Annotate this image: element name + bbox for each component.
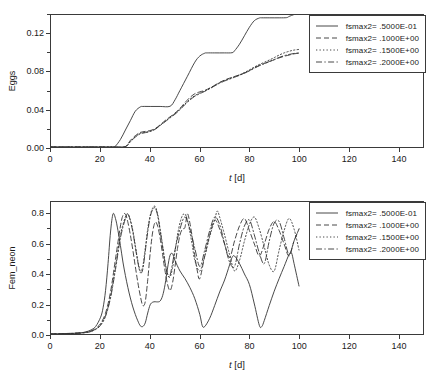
legend-item-0[interactable]: fsmax2= .5000E-01 bbox=[315, 207, 419, 219]
x-tick-label: 100 bbox=[292, 154, 307, 164]
y-tick-mark bbox=[46, 335, 50, 336]
y-tick-label: 0.04 bbox=[26, 105, 44, 115]
x-tick-mark bbox=[349, 335, 350, 339]
y-tick-label: 0.08 bbox=[26, 66, 44, 76]
legend-item-label: fsmax2= .5000E-01 bbox=[346, 209, 417, 218]
y-tick-mark bbox=[46, 33, 50, 34]
y-minor-tick-mark bbox=[47, 228, 50, 229]
y-minor-tick-mark bbox=[47, 14, 50, 15]
eggs-legend: fsmax2= .5000E-01fsmax2= .1000E+00fsmax2… bbox=[309, 15, 426, 73]
y-tick-mark bbox=[46, 244, 50, 245]
x-tick-label: 120 bbox=[342, 154, 357, 164]
eggs-x-axis-title: t [d] bbox=[50, 172, 424, 183]
x-tick-label: 80 bbox=[244, 341, 254, 351]
x-tick-mark bbox=[349, 148, 350, 152]
y-minor-tick-mark bbox=[47, 320, 50, 321]
y-tick-label: 0.12 bbox=[26, 28, 44, 38]
y-tick-label: 0.4 bbox=[31, 269, 44, 279]
legend-line-swatch-dashdot bbox=[315, 244, 339, 254]
x-tick-label: 80 bbox=[244, 154, 254, 164]
x-tick-mark bbox=[249, 335, 250, 339]
legend-item-3[interactable]: fsmax2= .2000E+00 bbox=[315, 56, 419, 68]
x-tick-label: 0 bbox=[47, 154, 52, 164]
y-tick-label: 0.6 bbox=[31, 239, 44, 249]
figure: 020406080100120140 0.000.040.080.12 t [d… bbox=[0, 0, 436, 377]
legend-line-swatch-dotted bbox=[315, 232, 339, 242]
legend-item-label: fsmax2= .1000E+00 bbox=[346, 34, 419, 43]
legend-line-swatch-dashed bbox=[315, 220, 339, 230]
legend-item-3[interactable]: fsmax2= .2000E+00 bbox=[315, 243, 419, 255]
y-tick-mark bbox=[46, 148, 50, 149]
x-tick-mark bbox=[200, 148, 201, 152]
x-tick-label: 20 bbox=[95, 341, 105, 351]
y-minor-tick-mark bbox=[47, 129, 50, 130]
fem-neon-panel: 020406080100120140 0.00.20.40.60.8 t [d]… bbox=[0, 187, 436, 377]
legend-item-2[interactable]: fsmax2= .1500E+00 bbox=[315, 231, 419, 243]
y-minor-tick-mark bbox=[47, 289, 50, 290]
x-tick-label: 40 bbox=[145, 341, 155, 351]
y-tick-mark bbox=[46, 110, 50, 111]
x-tick-label: 140 bbox=[392, 154, 407, 164]
x-tick-mark bbox=[200, 335, 201, 339]
legend-item-label: fsmax2= .5000E-01 bbox=[346, 22, 417, 31]
fem-neon-legend: fsmax2= .5000E-01fsmax2= .1000E+00fsmax2… bbox=[309, 202, 426, 260]
x-tick-mark bbox=[249, 148, 250, 152]
y-tick-label: 0.8 bbox=[31, 208, 44, 218]
x-tick-label: 20 bbox=[95, 154, 105, 164]
x-tick-mark bbox=[299, 148, 300, 152]
y-tick-label: 0.00 bbox=[26, 143, 44, 153]
x-tick-label: 60 bbox=[195, 154, 205, 164]
x-tick-mark bbox=[150, 335, 151, 339]
x-tick-mark bbox=[299, 335, 300, 339]
x-tick-label: 60 bbox=[195, 341, 205, 351]
legend-line-swatch-solid bbox=[315, 208, 339, 218]
y-tick-mark bbox=[46, 274, 50, 275]
legend-item-label: fsmax2= .1500E+00 bbox=[346, 233, 419, 242]
legend-item-label: fsmax2= .2000E+00 bbox=[346, 245, 419, 254]
x-tick-mark bbox=[50, 335, 51, 339]
x-axis-variable: t bbox=[229, 172, 232, 183]
legend-line-swatch-dashed bbox=[315, 33, 339, 43]
eggs-panel: 020406080100120140 0.000.040.080.12 t [d… bbox=[0, 0, 436, 190]
y-tick-label: 0.0 bbox=[31, 330, 44, 340]
legend-item-label: fsmax2= .2000E+00 bbox=[346, 58, 419, 67]
x-tick-mark bbox=[50, 148, 51, 152]
y-tick-mark bbox=[46, 213, 50, 214]
fem-neon-y-axis-title: Fem_neon bbox=[7, 246, 17, 289]
eggs-y-axis-title: Eggs bbox=[7, 71, 17, 92]
legend-item-label: fsmax2= .1500E+00 bbox=[346, 46, 419, 55]
y-tick-mark bbox=[46, 71, 50, 72]
x-tick-mark bbox=[150, 148, 151, 152]
x-tick-mark bbox=[100, 148, 101, 152]
x-tick-mark bbox=[100, 335, 101, 339]
x-tick-label: 100 bbox=[292, 341, 307, 351]
x-tick-label: 140 bbox=[392, 341, 407, 351]
legend-item-0[interactable]: fsmax2= .5000E-01 bbox=[315, 20, 419, 32]
legend-item-2[interactable]: fsmax2= .1500E+00 bbox=[315, 44, 419, 56]
x-axis-variable: t bbox=[229, 359, 232, 370]
fem-neon-x-axis-title: t [d] bbox=[50, 359, 424, 370]
legend-item-1[interactable]: fsmax2= .1000E+00 bbox=[315, 32, 419, 44]
x-tick-mark bbox=[399, 335, 400, 339]
y-minor-tick-mark bbox=[47, 259, 50, 260]
legend-line-swatch-solid bbox=[315, 21, 339, 31]
x-tick-mark bbox=[399, 148, 400, 152]
y-minor-tick-mark bbox=[47, 91, 50, 92]
legend-line-swatch-dashdot bbox=[315, 57, 339, 67]
legend-item-label: fsmax2= .1000E+00 bbox=[346, 221, 419, 230]
x-tick-label: 40 bbox=[145, 154, 155, 164]
legend-item-1[interactable]: fsmax2= .1000E+00 bbox=[315, 219, 419, 231]
x-tick-label: 120 bbox=[342, 341, 357, 351]
x-tick-label: 0 bbox=[47, 341, 52, 351]
legend-line-swatch-dotted bbox=[315, 45, 339, 55]
y-tick-label: 0.2 bbox=[31, 300, 44, 310]
y-minor-tick-mark bbox=[47, 52, 50, 53]
y-tick-mark bbox=[46, 305, 50, 306]
